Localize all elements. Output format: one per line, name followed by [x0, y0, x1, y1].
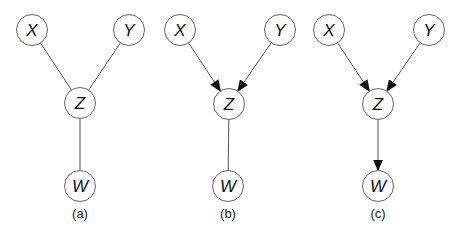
node-label: W	[72, 177, 90, 196]
node-y: Y	[414, 15, 445, 46]
node-label: X	[25, 21, 38, 40]
causal-graphs-figure: XYZW(a)XYZW(b)XYZW(c)	[0, 0, 456, 238]
edge-y-z	[387, 43, 420, 91]
node-w: W	[363, 171, 394, 202]
node-x: X	[17, 15, 48, 46]
node-y: Y	[114, 15, 145, 46]
node-label: W	[220, 177, 238, 196]
node-label: Z	[223, 95, 235, 114]
node-y: Y	[265, 15, 296, 46]
edge-x-z	[41, 43, 72, 90]
node-label: Y	[123, 21, 136, 40]
node-label: X	[322, 21, 335, 40]
node-label: X	[173, 21, 186, 40]
graph-c: XYZW(c)	[314, 15, 445, 222]
node-w: W	[65, 171, 96, 202]
node-label: Z	[372, 95, 384, 114]
node-label: W	[370, 177, 388, 196]
node-label: Y	[423, 21, 436, 40]
node-z: Z	[214, 89, 245, 120]
graph-caption: (a)	[72, 206, 88, 221]
graph-caption: (b)	[220, 206, 236, 221]
graph-a: XYZW(a)	[17, 15, 145, 222]
edge-y-z	[238, 43, 271, 91]
edge-x-z	[189, 43, 221, 91]
node-x: X	[165, 15, 196, 46]
edge-x-z	[338, 43, 370, 91]
node-z: Z	[65, 88, 96, 119]
node-label: Y	[274, 21, 287, 40]
edge-z-w	[228, 119, 229, 170]
node-z: Z	[363, 89, 394, 120]
graph-b: XYZW(b)	[165, 15, 296, 222]
edge-y-z	[89, 43, 121, 90]
node-x: X	[314, 15, 345, 46]
graph-caption: (c)	[370, 206, 385, 221]
node-label: Z	[74, 94, 86, 113]
node-w: W	[213, 171, 244, 202]
